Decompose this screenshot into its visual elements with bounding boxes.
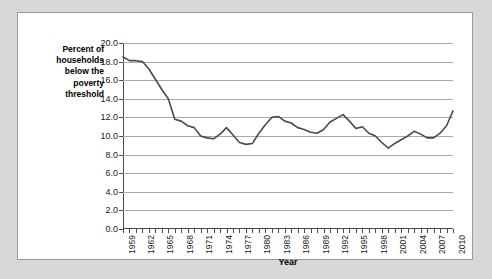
x-tick-mark <box>252 229 253 233</box>
x-tick-mark <box>408 229 409 233</box>
x-tick-label: 2007 <box>437 235 447 254</box>
x-tick-mark <box>265 229 266 233</box>
x-tick-label: 1968 <box>185 235 195 254</box>
x-tick-mark <box>369 229 370 233</box>
x-tick-label: 1989 <box>321 235 331 254</box>
x-tick-mark <box>349 229 350 233</box>
x-tick-label: 1995 <box>359 235 369 254</box>
x-tick-mark <box>440 229 441 233</box>
y-tick-label: 16.0 <box>100 75 118 85</box>
x-tick-label: 1992 <box>340 235 350 254</box>
x-tick-mark <box>188 229 189 233</box>
x-tick-label: 2010 <box>457 235 467 254</box>
x-tick-mark <box>162 229 163 233</box>
x-tick-mark <box>239 229 240 233</box>
x-tick-mark <box>246 229 247 233</box>
x-tick-label: 1983 <box>282 235 292 254</box>
x-tick-mark <box>201 229 202 233</box>
x-tick-mark <box>233 229 234 233</box>
y-tick-label: 6.0 <box>105 168 118 178</box>
y-axis-title: Percent of households below the poverty … <box>38 44 104 100</box>
x-tick-label: 1980 <box>262 235 272 254</box>
x-tick-mark <box>343 229 344 233</box>
y-tick-label: 2.0 <box>105 205 118 215</box>
y-tick-label: 10.0 <box>100 131 118 141</box>
x-tick-mark <box>129 229 130 233</box>
x-tick-mark <box>272 229 273 233</box>
x-tick-mark <box>181 229 182 233</box>
x-tick-label: 1965 <box>165 235 175 254</box>
x-tick-mark <box>434 229 435 233</box>
x-tick-mark <box>362 229 363 233</box>
y-tick-label: 20.0 <box>100 38 118 48</box>
y-tick-label: 4.0 <box>105 187 118 197</box>
y-tick-label: 18.0 <box>100 57 118 67</box>
x-tick-label: 1962 <box>146 235 156 254</box>
y-tick-label: 0.0 <box>105 224 118 234</box>
x-tick-mark <box>278 229 279 233</box>
chart-figure: Percent of households below the poverty … <box>0 0 492 279</box>
x-tick-mark <box>330 229 331 233</box>
x-tick-mark <box>155 229 156 233</box>
x-tick-mark <box>421 229 422 233</box>
x-tick-mark <box>375 229 376 233</box>
x-tick-mark <box>337 229 338 233</box>
x-tick-label: 2004 <box>418 235 428 254</box>
x-tick-label: 1986 <box>301 235 311 254</box>
x-tick-mark <box>447 229 448 233</box>
x-tick-mark <box>453 229 454 233</box>
x-tick-mark <box>214 229 215 233</box>
x-tick-mark <box>136 229 137 233</box>
chart-card: Percent of households below the poverty … <box>17 12 473 260</box>
x-tick-mark <box>311 229 312 233</box>
x-tick-mark <box>324 229 325 233</box>
poverty-rate-line <box>123 43 453 229</box>
x-tick-mark <box>259 229 260 233</box>
x-tick-mark <box>123 229 124 233</box>
x-tick-label: 1971 <box>204 235 214 254</box>
x-tick-mark <box>194 229 195 233</box>
x-tick-mark <box>220 229 221 233</box>
x-tick-mark <box>388 229 389 233</box>
x-tick-mark <box>175 229 176 233</box>
x-tick-mark <box>149 229 150 233</box>
x-tick-label: 1959 <box>127 235 137 254</box>
y-tick-label: 8.0 <box>105 150 118 160</box>
x-tick-label: 1977 <box>243 235 253 254</box>
x-tick-mark <box>227 229 228 233</box>
x-tick-mark <box>395 229 396 233</box>
x-axis-title: Year <box>123 257 453 267</box>
x-tick-mark <box>207 229 208 233</box>
x-tick-mark <box>298 229 299 233</box>
x-tick-mark <box>401 229 402 233</box>
x-tick-label: 1974 <box>224 235 234 254</box>
x-tick-mark <box>317 229 318 233</box>
plot-area: 20.018.016.014.012.010.08.06.04.02.00.0 … <box>123 43 453 229</box>
x-tick-mark <box>356 229 357 233</box>
x-tick-mark <box>291 229 292 233</box>
x-tick-label: 1998 <box>379 235 389 254</box>
x-tick-mark <box>142 229 143 233</box>
x-tick-mark <box>414 229 415 233</box>
x-tick-mark <box>382 229 383 233</box>
y-tick-label: 14.0 <box>100 94 118 104</box>
x-tick-mark <box>304 229 305 233</box>
y-tick-label: 12.0 <box>100 112 118 122</box>
x-tick-mark <box>427 229 428 233</box>
x-tick-label: 2001 <box>398 235 408 254</box>
x-tick-mark <box>285 229 286 233</box>
x-tick-mark <box>168 229 169 233</box>
